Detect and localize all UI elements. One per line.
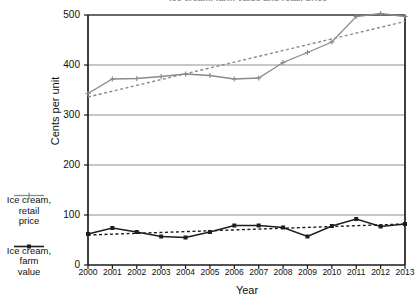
legend-plus-marker-icon: [0, 186, 58, 195]
datapoint-1-2013: [403, 222, 407, 226]
series-line-1: [88, 219, 405, 238]
trendline-0: [88, 22, 405, 98]
legend-label-0-line3: price: [0, 216, 58, 227]
datapoint-1-2010: [330, 224, 334, 228]
datapoint-1-2006: [232, 224, 236, 228]
chart-legend: Ice cream,retailpriceIce cream,farmvalue: [0, 186, 58, 287]
datapoint-1-2009: [305, 235, 309, 239]
legend-item-1[interactable]: Ice cream,farmvalue: [0, 237, 58, 278]
datapoint-1-2004: [184, 236, 188, 240]
datapoint-1-2002: [135, 230, 139, 234]
datapoint-1-2003: [159, 235, 163, 239]
datapoint-1-2005: [208, 230, 212, 234]
datapoint-1-2007: [257, 224, 261, 228]
chart-container: Ice cream, farm value and retail price C…: [0, 0, 419, 300]
datapoint-1-2012: [379, 225, 383, 229]
legend-label-1-line3: value: [0, 267, 58, 278]
datapoint-1-2011: [354, 217, 358, 221]
legend-item-0[interactable]: Ice cream,retailprice: [0, 186, 58, 227]
plot-area: [0, 0, 419, 300]
datapoint-1-2000: [86, 232, 90, 236]
datapoint-1-2001: [110, 226, 114, 230]
datapoint-1-2008: [281, 226, 285, 230]
legend-label-1-line2: farm: [0, 256, 58, 267]
series-line-0: [88, 14, 405, 94]
legend-square-marker-icon: [0, 237, 58, 246]
